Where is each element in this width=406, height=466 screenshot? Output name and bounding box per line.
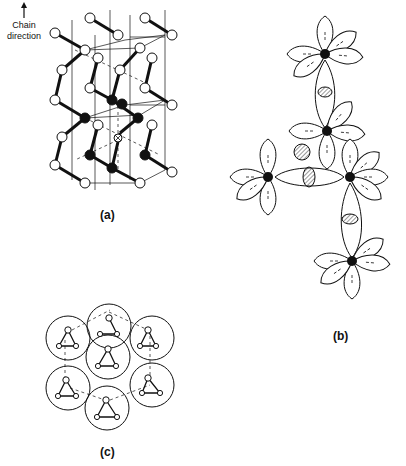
- panel-a-label: (a): [100, 208, 115, 222]
- panel-a-chain-structure: [50, 10, 177, 190]
- panel-b-orbital-diagram: [230, 16, 391, 299]
- up-arrow-icon: [21, 2, 27, 18]
- panel-c-hexagonal-packing: [46, 304, 174, 430]
- figure-canvas: [0, 0, 406, 466]
- panel-c-label: (c): [100, 445, 115, 459]
- panel-b-label: (b): [333, 329, 348, 343]
